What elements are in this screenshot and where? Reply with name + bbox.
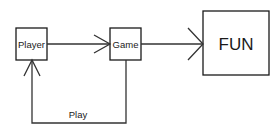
game-label: Game [113, 39, 139, 50]
node-fun: FUN [203, 11, 269, 75]
edge-player-to-game [47, 35, 110, 53]
node-game: Game [110, 28, 141, 60]
edge-game-to-fun [141, 28, 203, 60]
fun-label: FUN [219, 35, 254, 54]
edge-game-to-player: Play [24, 60, 126, 123]
player-label: Player [18, 39, 45, 50]
node-player: Player [16, 28, 47, 60]
flow-diagram: Player Game FUN Play [0, 0, 279, 131]
edge-label-play: Play [69, 109, 88, 120]
